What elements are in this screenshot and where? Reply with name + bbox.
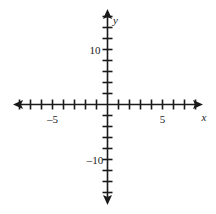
coordinate-plane-figure: –5 5 x [0,0,216,214]
y-axis-group: 10 –10 y [86,9,118,205]
y-tick-label-pos-ten: 10 [90,44,102,56]
x-tick-label-neg-five: –5 [46,113,59,125]
coordinate-plane-svg: –5 5 x [0,0,216,214]
x-tick-label-pos-five: 5 [160,113,166,125]
y-axis-label: y [112,14,118,26]
x-axis-group: –5 5 x [13,100,207,126]
x-axis-label: x [201,111,207,123]
y-tick-label-neg-ten: –10 [86,154,104,166]
